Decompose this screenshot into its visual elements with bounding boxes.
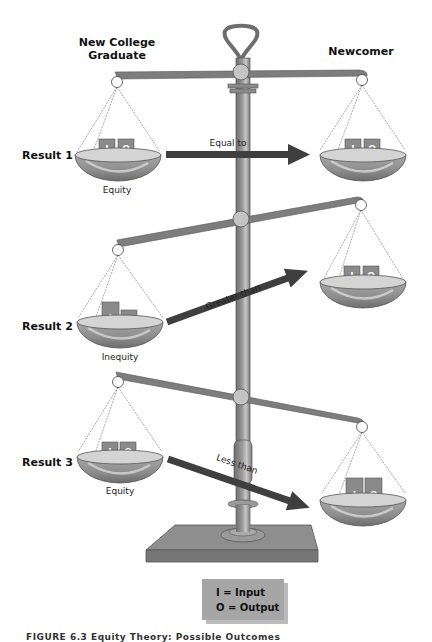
result-3-left-caption: Equity — [106, 486, 135, 496]
pan-right — [320, 148, 406, 181]
legend-input: I = Input — [216, 587, 265, 598]
result-2-left-caption: Inequity — [102, 352, 139, 362]
result-2: Result 2 I O Inequity I O Greater than — [22, 210, 406, 362]
pan-left — [77, 315, 163, 348]
header-left-line2: Graduate — [88, 49, 146, 62]
header-right: Newcomer — [328, 45, 394, 58]
pan-right — [320, 275, 406, 308]
result-1-label: Result 1 — [22, 149, 73, 162]
legend-box: I = Input O = Output — [202, 579, 288, 624]
pan-left — [75, 148, 161, 181]
scale-base — [146, 505, 318, 562]
result-1-left-caption: Equity — [103, 185, 132, 195]
result-3-label: Result 3 — [22, 456, 73, 469]
header-left-line1: New College — [79, 36, 156, 49]
result-2-label: Result 2 — [22, 320, 73, 333]
figure-caption: FIGURE 6.3 Equity Theory: Possible Outco… — [26, 632, 280, 642]
result-1: Result 1 I O Equity I O Equal to — [22, 85, 406, 195]
result-3: Result 3 I O Equity I O Less than — [22, 387, 406, 526]
comparison-equal-to: Equal to — [209, 138, 247, 148]
pan-right — [320, 493, 406, 526]
comparison-greater-than: Greater than — [204, 283, 262, 312]
scale-pole — [225, 26, 258, 527]
legend-output: O = Output — [216, 602, 280, 613]
pan-left — [77, 450, 163, 483]
